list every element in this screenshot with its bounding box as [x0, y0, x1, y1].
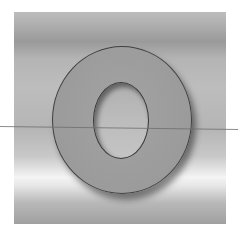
letter-o-inner-counter: [93, 82, 149, 159]
